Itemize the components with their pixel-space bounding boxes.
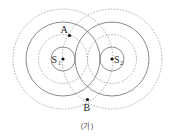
figure-caption: (가): [81, 122, 94, 131]
source-s2-label: S: [114, 54, 120, 65]
source-s1-subscript: 1: [58, 60, 61, 66]
point-a-dot: [68, 34, 71, 37]
source-s1-dot: [61, 57, 64, 60]
point-b-dot: [86, 98, 89, 101]
source-s1-label: S: [52, 54, 58, 65]
wave-interference-diagram: S 1 S 2 A B (가): [0, 0, 173, 137]
source-s2: S 2: [110, 54, 123, 66]
point-a: A: [61, 24, 72, 37]
point-b-label: B: [84, 102, 91, 113]
point-a-label: A: [61, 24, 69, 35]
point-b: B: [84, 98, 91, 113]
source-s2-subscript: 2: [120, 60, 123, 66]
